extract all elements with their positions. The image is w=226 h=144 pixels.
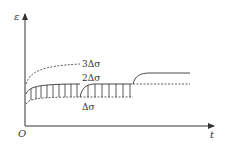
label-3dsigma: 3Δσ	[82, 59, 100, 69]
creep-diagram: ε O t 3Δσ 2Δσ Δσ	[0, 0, 226, 144]
label-dsigma: Δσ	[82, 102, 95, 112]
curve-3dsigma	[26, 64, 80, 84]
y-axis-label: ε	[14, 11, 19, 22]
curve-dsigma	[26, 97, 80, 104]
x-axis-label: t	[210, 129, 215, 140]
label-2dsigma: 2Δσ	[82, 73, 100, 83]
curve-final-rise	[133, 73, 190, 84]
origin-label: O	[18, 128, 26, 139]
